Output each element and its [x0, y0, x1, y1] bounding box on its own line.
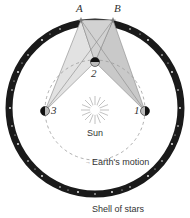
orbit-direction-arrow: → — [85, 159, 91, 165]
star-a-label: A — [76, 2, 83, 14]
earth-2-icon — [91, 58, 100, 67]
sun-label: Sun — [87, 128, 103, 138]
parallax-diagram: → — [0, 0, 190, 218]
sun-icon — [81, 96, 109, 124]
earth-1-icon — [141, 107, 150, 116]
earth-motion-label: Earth's motion — [92, 157, 149, 167]
star-b-label: B — [114, 2, 121, 14]
shell-of-stars-label: Shell of stars — [92, 204, 144, 214]
earth-1-label: 1 — [134, 104, 140, 116]
earth-3-icon — [41, 107, 50, 116]
earth-3-label: 3 — [51, 104, 57, 116]
earth-2-label: 2 — [91, 67, 97, 79]
